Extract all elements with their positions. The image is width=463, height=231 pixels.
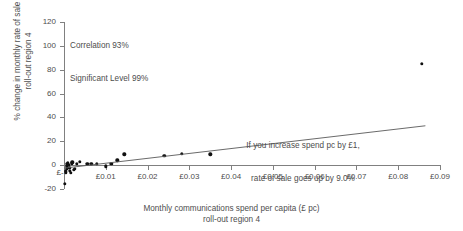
x-axis-title-line1: Monthly communications spend per capita … (0, 203, 463, 214)
y-axis-title: % change in monthly rate of sale roll-ou… (12, 0, 34, 146)
scatter-chart: -20020406080100120 £-£0.01£0.02£0.03£0.0… (0, 0, 463, 231)
x-axis-title-line2: roll-out region 4 (0, 214, 463, 225)
correlation-text: Correlation 93% (70, 40, 148, 51)
x-axis-title: Monthly communications spend per capita … (0, 203, 463, 225)
y-axis-title-line1: % change in monthly rate of sale (12, 0, 23, 146)
slope-annotation: If you increase spend pc by £1, rate of … (246, 118, 359, 206)
slope-text-line2: rate of sale goes up by 9.0% (246, 173, 359, 184)
significance-text: Significant Level 99% (70, 73, 148, 84)
slope-text-line1: If you increase spend pc by £1, (246, 140, 359, 151)
correlation-annotation: Correlation 93% Significant Level 99% (70, 18, 148, 106)
y-axis-title-line2: roll-out region 4 (23, 0, 34, 146)
